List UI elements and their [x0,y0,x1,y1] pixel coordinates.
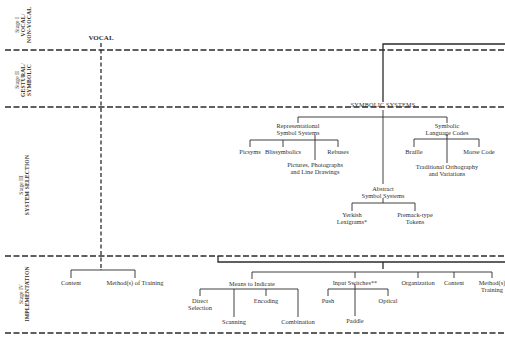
stage-3-label: Stage III SYSTEM SELECTION [18,155,30,215]
paddle-label: Paddle [346,317,363,324]
traditional-line-1: Traditional Orthography [416,163,478,170]
stage-2-label: Stage II GESTURAL/ SYMBOLIC [14,63,33,97]
direct-line-1: Direct [188,297,212,304]
language-codes-line-1: Symbolic [426,122,469,129]
pictures-line-2: and Line Drawings [287,168,343,175]
braille-label: Braille [405,148,422,155]
pictures-label: Pictures, Photographs and Line Drawings [287,161,343,176]
repr-bracket [250,140,338,147]
pictures-line-1: Pictures, Photographs [287,161,343,168]
symbolic-impl-bracket [218,256,505,262]
organization-label: Organization [401,279,434,286]
yerkish-line-2: Lexigrams* [337,218,368,225]
representational-line-1: Representational [277,122,320,129]
traditional-orthography-label: Traditional Orthography and Variations [416,163,478,178]
abstract-line-2: Symbol Systems [362,192,405,199]
stage-3-line-1: SYSTEM SELECTION [24,155,30,215]
stage-1-line-2: NON-VOCAL [26,7,32,43]
abstract-bracket [352,203,415,211]
rebuses-label: Rebuses [327,148,348,155]
switches-bracket [328,289,388,296]
optical-label: Optical [379,297,398,304]
vocal-label: VOCAL [88,35,113,42]
training-line-1: Method(s) [479,279,505,286]
representational-label: Representational Symbol Systems [277,122,320,137]
premack-label: Premack-type Tokens [397,211,433,226]
blissymbolics-label: Blissymbolics [265,148,301,155]
content-label: Content [444,279,464,286]
yerkish-label: Yerkish Lexigrams* [337,211,368,226]
vocal-content-label: Content [61,279,81,286]
means-to-indicate-label: Means to Indicate [229,280,275,287]
symbolic-main-path [383,44,505,102]
traditional-line-2: and Variations [416,170,478,177]
representational-line-2: Symbol Systems [277,129,320,136]
encoding-label: Encoding [254,297,279,304]
training-label: Method(s) Training [479,279,505,294]
stage-2-line-2: SYMBOLIC [26,63,32,97]
direct-line-2: Selection [188,304,212,311]
scanning-label: Scanning [222,318,246,325]
symbolic-systems-label: SYMBOLIC SYSTEMS [351,101,416,108]
abstract-label: Abstract Symbol Systems [362,185,405,200]
language-codes-label: Symbolic Language Codes [426,122,469,137]
premack-line-1: Premack-type [397,211,433,218]
vocal-impl-bracket [71,270,135,278]
diagram-canvas: Stage I VOCAL/ NON-VOCAL Stage II GESTUR… [0,0,505,338]
direct-selection-label: Direct Selection [188,297,212,312]
means-bracket [200,289,298,317]
premack-line-2: Tokens [397,218,433,225]
vocal-training-label: Method(s) of Training [107,279,164,286]
picsyms-label: Picsyms [239,148,260,155]
input-switches-label: Input Switches** [333,279,378,286]
stage-4-line-1: IMPLEMENTATION [24,266,30,321]
symbolic-impl-children-bar [252,272,492,279]
push-label: Push [322,297,334,304]
training-line-2: Training [479,286,505,293]
abstract-line-1: Abstract [362,185,405,192]
morse-code-label: Morse Code [463,148,494,155]
yerkish-line-1: Yerkish [337,211,368,218]
lang-bracket [414,139,479,147]
stage-4-label: Stage IV IMPLEMENTATION [18,266,30,321]
combination-label: Combination [281,318,314,325]
language-codes-line-2: Language Codes [426,129,469,136]
stage-1-label: Stage I VOCAL/ NON-VOCAL [14,7,33,43]
